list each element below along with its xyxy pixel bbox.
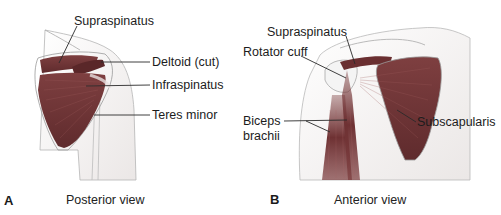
label-rotator-cuff: Rotator cuff: [243, 45, 307, 59]
label-supraspinatus-anterior: Supraspinatus: [267, 25, 347, 39]
caption-anterior-view: Anterior view: [334, 193, 406, 207]
shoulder-muscles-figure: Supraspinatus Deltoid (cut) Infraspinatu…: [0, 0, 501, 215]
anterior-view-drawing: [284, 27, 470, 180]
panel-letter-b: B: [270, 192, 279, 207]
illustration: [0, 0, 501, 215]
label-brachii: brachii: [243, 129, 280, 143]
label-infraspinatus: Infraspinatus: [152, 78, 224, 92]
label-teres-minor: Teres minor: [152, 108, 217, 122]
label-subscapularis: Subscapularis: [417, 115, 496, 129]
label-biceps: Biceps: [243, 114, 281, 128]
label-supraspinatus-posterior: Supraspinatus: [74, 14, 154, 28]
label-deltoid-cut: Deltoid (cut): [152, 55, 219, 69]
panel-letter-a: A: [4, 193, 13, 208]
caption-posterior-view: Posterior view: [66, 193, 145, 207]
posterior-view-drawing: [35, 26, 150, 180]
